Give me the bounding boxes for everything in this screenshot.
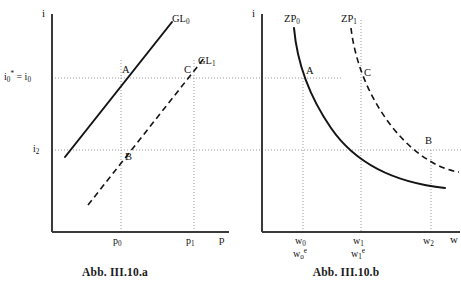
point-label-a-right: A	[306, 66, 314, 77]
caption-left: Abb. III.10.a	[0, 266, 230, 278]
curve-zp0	[294, 28, 445, 188]
y-tick-i0-star: i0* = i0	[4, 72, 31, 82]
x-tick-w1-e: w1e	[351, 249, 365, 259]
x-tick-p0: p0	[113, 236, 122, 246]
point-label-c-right: C	[364, 68, 371, 79]
curve-gl1	[88, 57, 205, 205]
x-tick-w1: w1	[353, 236, 364, 246]
x-tick-w0: w0	[295, 236, 306, 246]
curve-gl0	[65, 22, 172, 157]
point-label-b-right: B	[425, 136, 432, 147]
figure-root: i p i0* = i0 i2 p0 p1 GL0 GL1 A B C Abb.…	[0, 0, 461, 304]
curve-label-gl0: GL0	[172, 14, 190, 25]
chart-left-svg	[0, 0, 230, 262]
caption-right: Abb. III.10.b	[231, 266, 461, 278]
point-label-c-left: C	[184, 65, 191, 76]
curve-label-gl1: GL1	[198, 56, 216, 67]
x-tick-w2: w2	[423, 236, 434, 246]
point-label-a-left: A	[122, 65, 130, 76]
curve-label-zp1: ZP1	[341, 14, 357, 25]
panel-abb-iii-10-a: i p i0* = i0 i2 p0 p1 GL0 GL1 A B C Abb.…	[0, 0, 230, 304]
y-axis-label-right: i	[252, 8, 255, 19]
x-tick-p1: p1	[186, 236, 195, 246]
x-axis-label-right: w	[450, 234, 458, 245]
chart-right-svg	[231, 0, 461, 262]
y-tick-i2: i2	[33, 144, 39, 154]
curve-label-zp0: ZP0	[284, 14, 300, 25]
y-axis-label-left: i	[42, 8, 45, 19]
panel-abb-iii-10-b: i w ZP0 ZP1 A C B w0 woe w1 w1e w2 Abb. …	[231, 0, 461, 304]
point-label-b-left: B	[125, 152, 132, 163]
x-tick-w0-e: woe	[293, 249, 307, 259]
x-axis-label-left: p	[219, 234, 225, 245]
